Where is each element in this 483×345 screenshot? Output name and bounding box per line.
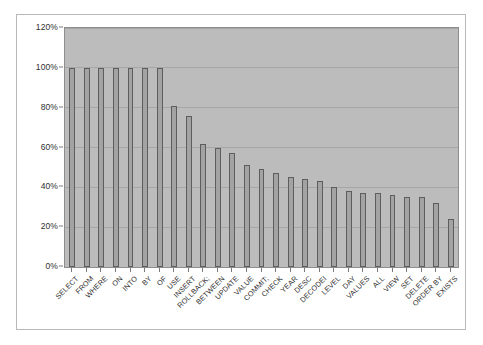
bar-rollback: [200, 144, 206, 267]
x-axis-tick-mark: [406, 268, 407, 272]
y-axis: 0%20%40%60%80%100%120%: [17, 15, 64, 280]
y-axis-tick-mark: [59, 66, 63, 67]
y-axis-tick-mark: [59, 266, 63, 267]
bar-values: [360, 193, 366, 267]
x-axis-tick-mark: [348, 268, 349, 272]
y-axis-tick-label: 0%: [46, 261, 59, 271]
bar-order-by: [433, 203, 439, 267]
bar-set: [404, 197, 410, 267]
bar-desc: [302, 179, 308, 267]
y-axis-tick-label: 60%: [41, 142, 58, 152]
x-axis-tick-mark: [71, 268, 72, 272]
x-axis-tick-mark: [202, 268, 203, 272]
bar-commit: [259, 169, 265, 267]
y-axis-tick-mark: [59, 186, 63, 187]
x-axis-tick-mark: [217, 268, 218, 272]
y-axis-tick-label: 120%: [36, 22, 58, 32]
x-axis-tick-mark: [421, 268, 422, 272]
x-axis-tick-mark: [130, 268, 131, 272]
x-axis-tick-mark: [275, 268, 276, 272]
bar-on: [113, 68, 119, 267]
bar-view: [390, 195, 396, 267]
bar-into: [128, 68, 134, 267]
bar-exists: [448, 219, 454, 267]
x-axis-tick-label: BY: [140, 274, 153, 287]
plot-area: [64, 27, 459, 268]
chart-figure-frame: 0%20%40%60%80%100%120% SELECTFROMWHEREON…: [16, 14, 466, 330]
x-axis-tick-mark: [377, 268, 378, 272]
y-axis-tick-mark: [59, 146, 63, 147]
bar-all: [375, 193, 381, 267]
x-axis-tick-mark: [450, 268, 451, 272]
bar-of: [157, 68, 163, 267]
y-axis-tick-label: 40%: [41, 181, 58, 191]
bar-decodei: [317, 181, 323, 267]
y-axis-tick-mark: [59, 27, 63, 28]
gridline: [65, 147, 458, 148]
x-axis-tick-mark: [231, 268, 232, 272]
x-axis-tick-mark: [159, 268, 160, 272]
x-axis-tick-mark: [144, 268, 145, 272]
gridline: [65, 107, 458, 108]
x-axis-tick-mark: [115, 268, 116, 272]
y-axis-tick-mark: [59, 226, 63, 227]
x-axis-tick-mark: [188, 268, 189, 272]
x-axis-tick-mark: [246, 268, 247, 272]
bar-insert: [186, 116, 192, 267]
x-axis-tick-mark: [173, 268, 174, 272]
bar-select: [69, 68, 75, 267]
y-axis-tick-label: 80%: [41, 102, 58, 112]
x-axis-tick-mark: [362, 268, 363, 272]
x-axis-tick-label: INTO: [120, 274, 139, 293]
bar-where: [98, 68, 104, 267]
bar-day: [346, 191, 352, 267]
y-axis-tick-label: 20%: [41, 221, 58, 231]
gridline: [65, 67, 458, 68]
bar-between: [215, 148, 221, 268]
gridline: [65, 28, 458, 29]
bar-use: [171, 106, 177, 267]
x-axis: SELECTFROMWHEREONINTOBYOFUSEINSERTROLLBA…: [64, 268, 459, 330]
bar-from: [84, 68, 90, 267]
x-axis-tick-mark: [304, 268, 305, 272]
y-axis-tick-label: 100%: [36, 62, 58, 72]
bar-by: [142, 68, 148, 267]
x-axis-tick-mark: [333, 268, 334, 272]
bar-delete: [419, 197, 425, 267]
x-axis-tick-mark: [261, 268, 262, 272]
x-axis-tick-mark: [86, 268, 87, 272]
x-axis-tick-mark: [435, 268, 436, 272]
x-axis-tick-mark: [392, 268, 393, 272]
x-axis-tick-mark: [290, 268, 291, 272]
bar-year: [288, 177, 294, 267]
x-axis-tick-mark: [319, 268, 320, 272]
bar-update: [229, 153, 235, 267]
bar-level: [331, 187, 337, 267]
y-axis-tick-mark: [59, 106, 63, 107]
x-axis-tick-mark: [100, 268, 101, 272]
bar-check: [273, 173, 279, 267]
bar-value: [244, 165, 250, 267]
